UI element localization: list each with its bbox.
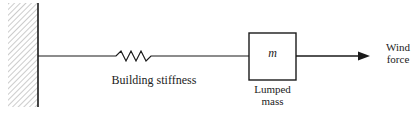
wall-hatching [8,3,38,107]
force-arrow-icon [296,52,370,61]
spring-element [38,51,249,61]
building-model-diagram: Building stiffness m Lumped mass Wind fo… [0,0,418,116]
mass-label-line2: mass [262,95,284,107]
spring-label: Building stiffness [112,73,197,87]
lumped-mass: m [249,33,296,80]
fixed-wall [8,3,38,107]
mass-label-line1: Lumped [254,83,291,95]
spring-icon [38,51,249,61]
force-label-line2: force [387,53,410,65]
force-label-line1: Wind [386,41,410,53]
mass-symbol: m [268,46,277,60]
